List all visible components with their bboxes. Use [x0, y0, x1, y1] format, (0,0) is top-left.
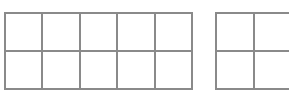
grid-cell — [81, 52, 118, 90]
grid-cell — [43, 14, 80, 52]
grid-cell — [118, 52, 155, 90]
grid-cell — [81, 14, 118, 52]
grid-2x2 — [215, 12, 289, 90]
grid-cell — [43, 52, 80, 90]
grid-cell — [118, 14, 155, 52]
grid-cell — [156, 14, 193, 52]
grid-cell — [6, 14, 43, 52]
grid-cell — [255, 14, 290, 52]
grid-cell — [217, 14, 255, 52]
grid-cell — [255, 52, 290, 90]
grid-cell — [156, 52, 193, 90]
grid-cell — [217, 52, 255, 90]
grid-cell — [6, 52, 43, 90]
grid-2x5 — [4, 12, 193, 90]
